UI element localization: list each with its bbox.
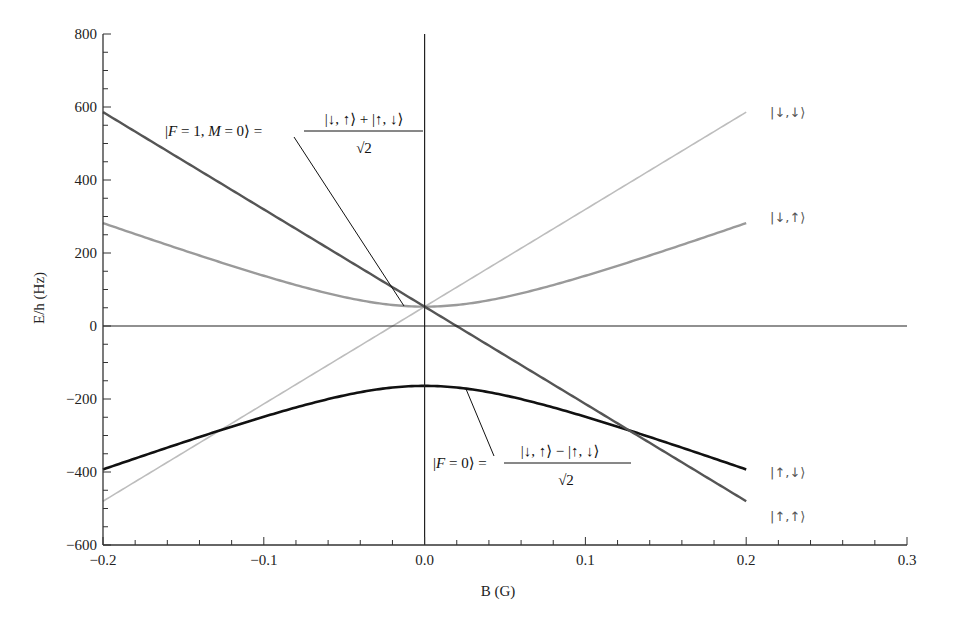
annotation-pointer-singlet — [466, 389, 494, 456]
state-label-down-down: |↓,↓⟩ — [770, 105, 805, 120]
annotation-triplet-denominator: √2 — [356, 140, 372, 156]
annotation-singlet-state: |F = 0⟩ = |↓, ↑⟩ − |↑, ↓⟩ √2 — [433, 389, 631, 488]
x-tick-label: −0.2 — [89, 552, 116, 568]
y-axis-title: E/h (Hz) — [31, 272, 48, 324]
y-tick-label: 0 — [90, 318, 98, 334]
annotation-singlet-numerator: |↓, ↑⟩ − |↑, ↓⟩ — [521, 443, 600, 459]
y-tick-label: 600 — [75, 99, 98, 115]
y-tick-label: 800 — [75, 26, 98, 42]
annotation-singlet-lhs: |F = 0⟩ = — [433, 455, 487, 471]
y-tick-label: −200 — [66, 391, 97, 407]
annotation-singlet-denominator: √2 — [558, 472, 574, 488]
annotation-triplet-numerator: |↓, ↑⟩ + |↑, ↓⟩ — [325, 111, 404, 127]
annotation-triplet-lhs: |F = 1, M = 0⟩ = — [165, 123, 262, 139]
annotation-pointer-triplet — [294, 137, 404, 306]
annotation-triplet-state: |F = 1, M = 0⟩ = |↓, ↑⟩ + |↑, ↓⟩ √2 — [165, 111, 423, 306]
y-tick-label: −600 — [66, 537, 97, 553]
y-tick-label: −400 — [66, 464, 97, 480]
energy-level-chart: −600−400−2000200400600800−0.2−0.10.00.10… — [0, 0, 953, 620]
state-label-up-up: |↑,↑⟩ — [770, 509, 805, 524]
y-tick-label: 200 — [75, 245, 98, 261]
x-tick-label: −0.1 — [250, 552, 277, 568]
state-label-down-up: |↓,↑⟩ — [770, 210, 805, 225]
state-label-up-down: |↑,↓⟩ — [770, 465, 805, 480]
x-axis-title: B (G) — [481, 583, 516, 600]
y-tick-label: 400 — [75, 172, 98, 188]
x-tick-label: 0.0 — [415, 552, 434, 568]
x-tick-label: 0.3 — [898, 552, 917, 568]
x-tick-label: 0.2 — [737, 552, 756, 568]
x-tick-label: 0.1 — [576, 552, 595, 568]
